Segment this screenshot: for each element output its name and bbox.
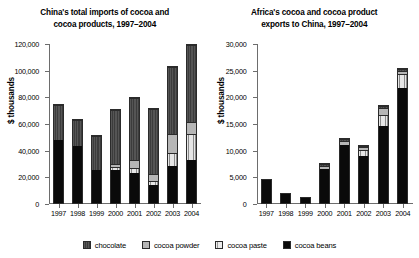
bar-segment-beans (149, 185, 158, 203)
legend-label-beans: cocoa beans (295, 241, 336, 250)
legend-label-paste: cocoa paste (227, 241, 266, 250)
x-axis-label-2000: 2000 (317, 209, 332, 218)
bar-2000 (110, 109, 121, 204)
y-tick-label: 100,000 (14, 67, 39, 76)
bar-2003 (378, 105, 389, 204)
chart-panels: China's total imports of cocoa and cocoa… (0, 0, 419, 228)
bar-segment-beans (54, 140, 63, 203)
bar-2004 (186, 44, 197, 204)
x-axis-label-2004: 2004 (395, 209, 410, 218)
legend-swatch-chocolate (83, 241, 91, 249)
x-tick (97, 204, 98, 208)
legend-item-beans: cocoa beans (283, 241, 336, 250)
x-tick (135, 204, 136, 208)
bar-segment-beans (262, 180, 271, 203)
x-tick (116, 204, 117, 208)
bar-segment-beans (379, 126, 388, 203)
chart-title-line-2: exports to China, 1997–2004 (216, 19, 414, 31)
chart-title-africa-exports: Africa's cocoa and cocoa product exports… (216, 7, 414, 30)
bar-segment-beans (168, 166, 177, 203)
y-tick: 0 (253, 204, 257, 205)
bar-segment-beans (320, 169, 329, 203)
bar-group-africa (257, 44, 413, 204)
x-tick (154, 204, 155, 208)
x-tick (59, 204, 60, 208)
y-tick-label: 0 (35, 200, 39, 209)
x-axis-labels-africa: 19971998199920002001200220032004 (257, 204, 413, 220)
y-tick: 80,000 (45, 97, 49, 98)
bar-segment-powder (130, 160, 139, 168)
x-tick (78, 204, 79, 208)
y-tick: 40,000 (45, 151, 49, 152)
x-axis-label-1997: 1997 (259, 209, 274, 218)
y-tick-label: 15,000 (226, 120, 247, 129)
bar-segment-beans (281, 194, 290, 203)
bar-segment-chocolate (111, 110, 120, 164)
chart-legend: chocolatecocoa powdercocoa pastecocoa be… (0, 238, 419, 252)
bar-segment-beans (111, 170, 120, 203)
x-tick (403, 204, 404, 208)
y-tick: 120,000 (45, 44, 49, 45)
bar-2001 (129, 97, 140, 204)
plot-area-africa: 19971998199920002001200220032004 05,0001… (257, 44, 413, 204)
bar-2002 (148, 108, 159, 204)
bar-2002 (358, 145, 369, 204)
legend-item-powder: cocoa powder (142, 241, 199, 250)
bar-segment-powder (168, 134, 177, 152)
bar-1998 (280, 193, 291, 204)
y-tick: 20,000 (45, 177, 49, 178)
x-tick (364, 204, 365, 208)
y-tick-label: 120,000 (14, 40, 39, 49)
y-tick-label: 0 (243, 200, 247, 209)
y-tick: 100,000 (45, 71, 49, 72)
bar-1999 (91, 135, 102, 204)
x-axis-label-2000: 2000 (108, 209, 123, 218)
y-tick: 15,000 (253, 124, 257, 125)
y-tick-label: 5,000 (230, 173, 247, 182)
y-tick: 20,000 (253, 97, 257, 98)
plot-area-china: 19971998199920002001200220032004 020,000… (49, 44, 201, 204)
bar-segment-chocolate (54, 105, 63, 140)
legend-swatch-beans (283, 241, 291, 249)
x-tick (383, 204, 384, 208)
bar-segment-chocolate (168, 67, 177, 134)
bar-2001 (339, 138, 350, 204)
x-axis-label-1998: 1998 (70, 209, 85, 218)
y-tick-label: 10,000 (226, 147, 247, 156)
bar-segment-paste (398, 74, 407, 88)
y-tick-label: 80,000 (18, 93, 39, 102)
y-tick-label: 20,000 (226, 93, 247, 102)
legend-item-paste: cocoa paste (215, 241, 266, 250)
bar-1999 (300, 197, 311, 204)
y-tick-label: 25,000 (226, 67, 247, 76)
chart-panel-africa-exports: Africa's cocoa and cocoa product exports… (210, 0, 419, 228)
legend-swatch-paste (215, 241, 223, 249)
bar-segment-paste (168, 153, 177, 166)
x-axis-label-1999: 1999 (89, 209, 104, 218)
x-axis-label-2001: 2001 (127, 209, 142, 218)
bar-segment-beans (301, 198, 310, 203)
bar-segment-beans (398, 88, 407, 203)
bar-segment-powder (187, 122, 196, 134)
x-tick (305, 204, 306, 208)
bar-group-china (49, 44, 201, 204)
x-axis-label-2003: 2003 (376, 209, 391, 218)
bar-segment-chocolate (92, 136, 101, 171)
y-tick-label: 60,000 (18, 120, 39, 129)
bar-2003 (167, 66, 178, 204)
bar-1998 (72, 119, 83, 204)
chart-title-china-imports: China's total imports of cocoa and cocoa… (6, 7, 204, 30)
legend-swatch-powder (142, 241, 150, 249)
x-axis-label-2002: 2002 (356, 209, 371, 218)
x-tick (325, 204, 326, 208)
x-axis-label-1999: 1999 (298, 209, 313, 218)
x-axis-labels-china: 19971998199920002001200220032004 (49, 204, 201, 220)
bar-segment-beans (359, 156, 368, 203)
chart-title-line-1: China's total imports of cocoa and (6, 7, 204, 19)
x-axis-label-2004: 2004 (184, 209, 199, 218)
x-tick (173, 204, 174, 208)
y-tick: 30,000 (253, 44, 257, 45)
y-tick-label: 20,000 (18, 173, 39, 182)
y-tick: 25,000 (253, 71, 257, 72)
bar-segment-beans (340, 145, 349, 203)
